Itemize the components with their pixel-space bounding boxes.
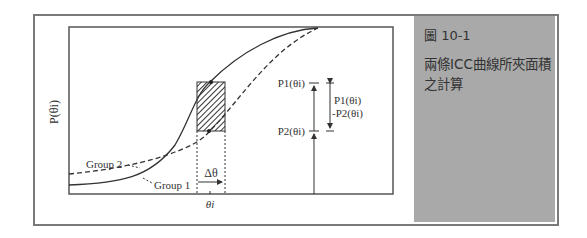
group1-leader <box>143 178 152 183</box>
hatched-area <box>197 82 225 131</box>
diff-label-top: P1(θi) <box>334 94 362 107</box>
theta-label: θi <box>206 198 214 210</box>
p1-point <box>209 80 213 84</box>
delta-theta-label: Δθ <box>204 166 218 180</box>
p2-point <box>207 129 211 133</box>
group2-leader <box>128 165 140 168</box>
p2-label: P2(θi) <box>278 125 306 138</box>
icc-diagram: P(θi) P1(θi) P2(θi) P1(θi) -P2(θi) Δθ θi… <box>0 0 587 238</box>
diff-label-bottom: -P2(θi) <box>332 107 363 120</box>
p1-label: P1(θi) <box>278 77 306 90</box>
group1-label: Group 1 <box>154 179 190 191</box>
group2-label: Group 2 <box>86 158 122 170</box>
group2-curve <box>69 28 318 174</box>
y-axis-label: P(θi) <box>47 100 61 124</box>
